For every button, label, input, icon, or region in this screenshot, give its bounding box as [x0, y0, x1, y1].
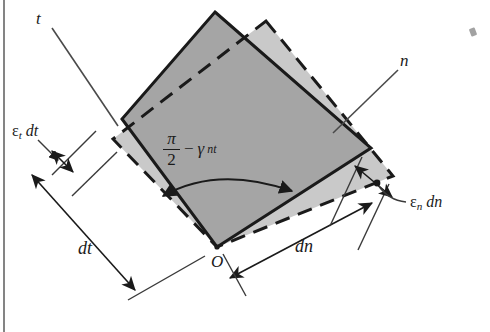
extension-line-dn-left — [223, 254, 246, 296]
angle-expression: π 2 − γnt — [163, 130, 217, 169]
extension-line-dt-bottom — [128, 256, 205, 300]
leader-line-epsilon-t-dt — [38, 140, 58, 160]
extension-line-t-outer — [52, 131, 96, 175]
epsilon-t-subscript: t — [19, 129, 22, 141]
minus-operator: − — [183, 139, 195, 159]
extension-line-t-inner — [72, 152, 117, 196]
origin-point-marker — [214, 244, 219, 249]
fraction-denominator-two: 2 — [165, 151, 178, 169]
axis-label-n: n — [400, 52, 409, 69]
origin-label: O — [211, 253, 223, 270]
leader-line-n — [333, 70, 398, 133]
fraction-numerator-pi: π — [165, 130, 178, 148]
diagram-canvas — [0, 0, 490, 332]
epsilon-t-glyph: ε — [12, 122, 19, 139]
dimension-arrow-dt — [32, 175, 135, 290]
strain-diagram-figure: t n O dt dn εt dt εn dn π 2 − γnt — [0, 0, 490, 332]
overlap-region-fill — [122, 12, 371, 247]
dimension-arrow-epsilon-t-dt — [52, 151, 73, 172]
extension-line-dn-outer — [358, 184, 389, 250]
strain-label-epsilon-n-dn: εn dn — [410, 194, 442, 212]
dimension-label-dn: dn — [295, 237, 313, 255]
axis-label-t: t — [36, 10, 41, 27]
leader-line-t — [52, 28, 118, 126]
pi-over-two-fraction: π 2 — [163, 130, 180, 169]
strain-label-epsilon-t-dt: εt dt — [12, 123, 38, 141]
epsilon-n-subscript: n — [417, 200, 423, 212]
dimension-label-dt: dt — [78, 239, 92, 257]
gamma-glyph: γ — [198, 139, 205, 159]
epsilon-t-differential: dt — [26, 122, 38, 139]
epsilon-n-differential: dn — [426, 193, 442, 210]
epsilon-n-glyph: ε — [410, 193, 417, 210]
leader-dot-epsilon-n-dn — [374, 180, 381, 187]
gamma-subscript-nt: nt — [207, 142, 216, 157]
